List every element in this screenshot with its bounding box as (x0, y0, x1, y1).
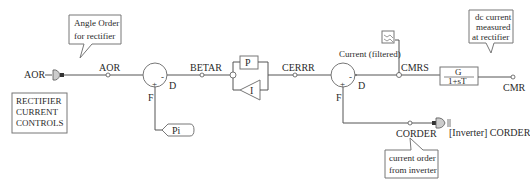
svg-text:-: - (349, 72, 352, 82)
svg-text:CURRENT: CURRENT (16, 107, 59, 117)
pi-controller: P I (230, 56, 268, 100)
svg-text:D: D (169, 80, 176, 91)
svg-text:measured: measured (476, 22, 511, 32)
corder-label: CORDER (396, 128, 437, 139)
inverter-corder-connector-icon (432, 118, 450, 128)
svg-text:1+sT: 1+sT (448, 76, 467, 86)
current-filtered-label: Current (filtered) (339, 49, 401, 59)
svg-text:D: D (358, 80, 365, 91)
import-connector-icon (53, 70, 64, 80)
cerrr-label: CERRR (282, 62, 315, 73)
aor-input-label: AOR (24, 69, 45, 80)
svg-text:F: F (336, 92, 342, 103)
inverter-corder-label: [Inverter] CORDER (449, 127, 530, 138)
svg-text:from inverter: from inverter (389, 165, 437, 175)
control-diagram: Angle Order for rectifier AOR AOR - + D … (0, 0, 530, 191)
cmr-label: CMR (503, 82, 526, 93)
svg-text:RECTIFIER: RECTIFIER (16, 96, 62, 106)
svg-text:CONTROLS: CONTROLS (16, 118, 64, 128)
svg-text:current order: current order (389, 153, 436, 163)
svg-text:for rectifier: for rectifier (74, 31, 115, 41)
summer-2: - + D F (331, 63, 365, 103)
aor-label: AOR (99, 62, 120, 73)
betar-label: BETAR (190, 62, 222, 73)
cmrs-label: CMRS (401, 62, 429, 73)
callout-angle-order: Angle Order for rectifier (69, 15, 121, 58)
svg-text:F: F (148, 92, 154, 103)
svg-text:Pi: Pi (172, 125, 181, 136)
svg-text:Angle Order: Angle Order (74, 18, 119, 28)
transfer-function-block: G 1+sT (440, 67, 478, 86)
svg-text:P: P (245, 57, 251, 68)
callout-current-order: current order from inverter (385, 138, 438, 178)
constant-pi: Pi (162, 124, 194, 136)
callout-dc-current: dc current measured at rectifier (469, 10, 513, 53)
svg-text:at rectifier: at rectifier (472, 32, 509, 42)
svg-text:I: I (250, 85, 253, 96)
svg-text:-: - (161, 72, 164, 82)
summer-1: - + D F (143, 63, 176, 103)
title-box: RECTIFIER CURRENT CONTROLS (12, 93, 67, 133)
svg-text:dc current: dc current (475, 12, 512, 22)
graph-meter-icon (382, 31, 394, 43)
